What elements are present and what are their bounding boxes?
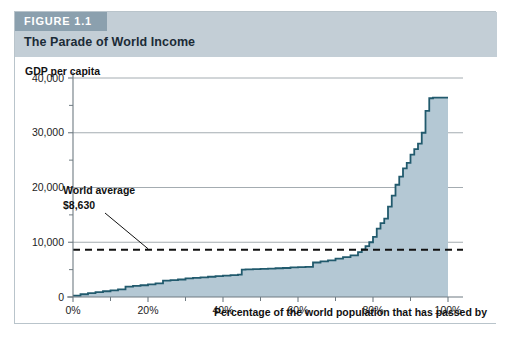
x-tick-label-0: 0%	[65, 304, 80, 316]
figure-title: The Parade of World Income	[24, 35, 195, 49]
world-average-annotation-line2: $8,630	[63, 199, 95, 211]
y-axis-title: GDP per capita	[25, 65, 100, 77]
chart-plot-area: 010,00020,00030,00040,000 0%20%40%60%80%…	[15, 57, 497, 323]
figure-number-label: FIGURE 1.1	[24, 15, 92, 27]
annotation-leader-line	[105, 213, 148, 249]
y-tick-label-10000: 10,000	[32, 236, 64, 248]
y-tick-label-20000: 20,000	[32, 181, 64, 193]
figure-container: FIGURE 1.1 The Parade of World Income 01…	[14, 11, 496, 324]
world-average-annotation-line1: World average	[63, 184, 135, 196]
x-tick-label-20: 20%	[137, 304, 158, 316]
figure-header-band: FIGURE 1.1 The Parade of World Income	[15, 12, 497, 57]
y-tick-label-30000: 30,000	[32, 126, 64, 138]
figure-number-badge: FIGURE 1.1	[15, 12, 107, 31]
x-axis-title: Percentage of the world population that …	[214, 306, 487, 318]
figure-root: FIGURE 1.1 The Parade of World Income 01…	[0, 0, 511, 344]
gdp-per-capita-chart: 010,00020,00030,00040,000 0%20%40%60%80%…	[15, 57, 497, 323]
y-tick-label-0: 0	[58, 291, 64, 303]
y-tick-labels-group: 010,00020,00030,00040,000	[32, 72, 64, 303]
